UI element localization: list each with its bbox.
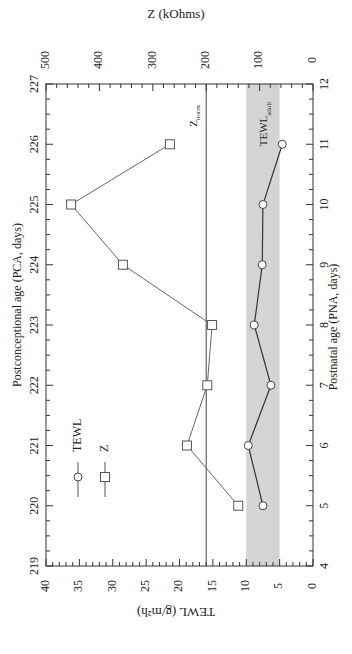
tewl-marker — [278, 140, 286, 148]
pca-tick-label: 221 — [27, 437, 41, 455]
pna-tick-label: 11 — [317, 138, 331, 150]
pna-tick-label: 6 — [317, 443, 331, 449]
z-tick-label: 0 — [305, 57, 319, 63]
tewl-marker — [259, 201, 267, 209]
z-norm-label: Znorm — [187, 105, 202, 127]
tewl-tick-label: 15 — [205, 580, 219, 592]
tewl-tick-label: 20 — [171, 580, 185, 592]
pca-axis-title: Postconceptional age (PCA, days) — [10, 223, 24, 387]
pca-tick-label: 220 — [27, 497, 41, 515]
tewl-marker — [258, 261, 266, 269]
tewl-tick-label: 25 — [138, 580, 152, 592]
z-marker — [118, 260, 127, 269]
pca-tick-label: 224 — [27, 256, 41, 274]
pca-tick-label: 225 — [27, 196, 41, 214]
z-marker — [67, 200, 76, 209]
pna-axis-title: Postnatal age (PNA, days) — [326, 264, 340, 391]
z-marker — [208, 321, 217, 330]
legend-label-tewl: TEWL — [70, 419, 84, 452]
z-tick-label: 500 — [38, 51, 52, 69]
z-marker — [234, 501, 243, 510]
tewl-tick-label: 40 — [38, 580, 52, 592]
tewl-marker — [250, 321, 258, 329]
pna-tick-label: 4 — [317, 563, 331, 569]
z-marker — [165, 140, 174, 149]
z-marker — [182, 441, 191, 450]
tewl-tick-label: 0 — [305, 583, 319, 589]
legend-label-z: Z — [97, 445, 111, 452]
pna-tick-label: 5 — [317, 503, 331, 509]
pca-tick-label: 227 — [27, 75, 41, 93]
tewl-marker — [244, 442, 252, 450]
pna-tick-label: 10 — [317, 199, 331, 211]
z-tick-label: 300 — [145, 51, 159, 69]
tewl-marker — [267, 381, 275, 389]
legend-circle-icon — [74, 473, 82, 481]
tewl-tick-label: 35 — [71, 580, 85, 592]
tewl-tick-label: 10 — [238, 580, 252, 592]
pna-tick-label: 12 — [317, 78, 331, 90]
z-tick-label: 200 — [198, 51, 212, 69]
pca-tick-label: 222 — [27, 376, 41, 394]
z-marker — [203, 381, 212, 390]
pca-tick-label: 219 — [27, 557, 41, 575]
pca-tick-label: 223 — [27, 316, 41, 334]
pca-tick-label: 226 — [27, 135, 41, 153]
z-tick-label: 100 — [251, 51, 265, 69]
tewl-marker — [259, 502, 267, 510]
tewl-tick-label: 30 — [105, 580, 119, 592]
legend-square-icon — [101, 473, 110, 482]
tewl-tick-label: 5 — [271, 583, 285, 589]
z-tick-label: 400 — [91, 51, 105, 69]
tewl-axis-title: TEWL (g/m²h) — [0, 604, 352, 620]
chart: 219220221222223224225226227Postconceptio… — [0, 0, 352, 654]
